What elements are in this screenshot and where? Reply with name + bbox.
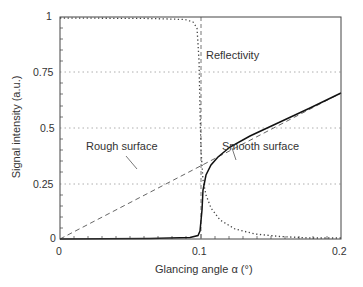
x-tick-02: 0.2	[332, 245, 347, 257]
x-tick-0: 0	[56, 245, 62, 257]
y-tick-05: 0.5	[40, 122, 55, 134]
rough-surface-annotation: Rough surface	[86, 140, 158, 152]
y-axis-label: Signal intensity (a.u.)	[10, 67, 22, 187]
axis-ticks	[60, 28, 327, 239]
x-tick-01: 0.1	[192, 245, 207, 257]
rough-leader	[126, 156, 137, 169]
y-tick-075: 0.75	[33, 66, 53, 78]
reflectivity-annotation: Reflectivity	[206, 49, 259, 61]
rough-surface-line	[60, 93, 341, 239]
y-tick-1: 1	[46, 10, 52, 22]
x-axis-label: Glancing angle α (°)	[155, 263, 253, 275]
y-tick-025: 0.25	[33, 178, 53, 190]
smooth-surface-annotation: Smooth surface	[222, 140, 299, 152]
y-tick-0: 0	[50, 232, 56, 244]
